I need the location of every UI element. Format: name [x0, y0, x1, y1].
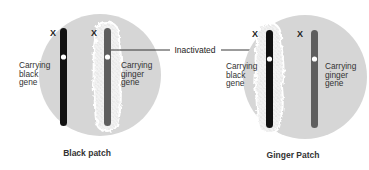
centromere	[267, 56, 272, 61]
cell-black-patch: X Carrying black gene X Carrying ginger …	[19, 14, 161, 158]
callout-label: Inactivated	[174, 45, 215, 55]
chromosome-bar	[60, 28, 67, 126]
x-label: X	[297, 29, 303, 39]
chromosome-bar	[266, 30, 273, 128]
centromere	[105, 54, 110, 59]
cell-ginger-patch: X Carrying black gene X Carrying ginger …	[226, 15, 367, 160]
cell-caption: Black patch	[63, 148, 111, 158]
chromosome-black-inactivated: X Carrying black gene	[226, 23, 284, 133]
cell-caption: Ginger Patch	[267, 150, 320, 160]
chromosome-bar	[104, 28, 111, 126]
centromere	[61, 54, 66, 59]
x-label: X	[91, 28, 97, 38]
x-inactivation-diagram: X Carrying black gene X Carrying ginger …	[0, 0, 369, 170]
x-label: X	[50, 28, 56, 38]
centromere	[312, 56, 317, 61]
chromosome-bar	[311, 30, 318, 128]
x-label: X	[252, 29, 258, 39]
